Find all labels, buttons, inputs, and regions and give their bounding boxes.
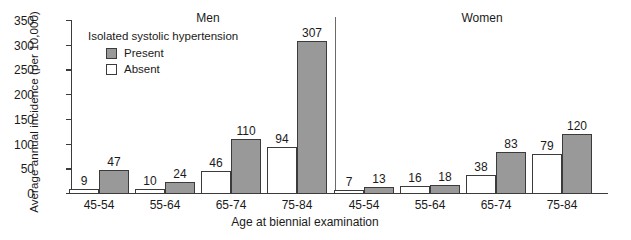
x-tick-men-65-74: 65-74 (196, 198, 266, 212)
x-tick-women-75-84: 75-84 (527, 198, 597, 212)
bar-men-75-84-absent (267, 147, 297, 194)
x-tick-men-55-64: 55-64 (130, 198, 200, 212)
bar-women-55-64-present (430, 185, 460, 194)
x-tick-men-75-84: 75-84 (262, 198, 332, 212)
x-tick-women-65-74: 65-74 (461, 198, 531, 212)
bar-men-65-74-absent (201, 171, 231, 194)
bar-men-55-64-absent (135, 189, 165, 194)
bar-value-women-65-74-absent: 38 (461, 161, 501, 173)
x-tick-women-45-54: 45-54 (329, 198, 399, 212)
bar-value-men-75-84-absent: 94 (262, 133, 302, 145)
bar-value-women-55-64-present: 18 (425, 171, 465, 183)
bar-value-men-45-54-present: 47 (94, 156, 134, 168)
bar-women-55-64-absent (400, 186, 430, 194)
bar-value-women-75-84-absent: 79 (527, 140, 567, 152)
x-tick-men-45-54: 45-54 (64, 198, 134, 212)
x-axis-label: Age at biennial examination (185, 215, 425, 229)
x-tick-women-55-64: 55-64 (395, 198, 465, 212)
bar-value-men-65-74-absent: 46 (196, 157, 236, 169)
bar-women-65-74-present (496, 152, 526, 193)
bar-value-women-45-54-present: 13 (359, 173, 399, 185)
chart-figure: Average annual incidence (per 10,000) 35… (0, 0, 631, 240)
bar-women-65-74-absent (466, 175, 496, 194)
bar-value-men-65-74-present: 110 (226, 125, 266, 137)
bar-value-men-55-64-present: 24 (160, 168, 200, 180)
bar-women-75-84-absent (532, 154, 562, 193)
bar-men-45-54-absent (69, 189, 99, 193)
bar-men-75-84-present (297, 41, 327, 193)
bar-women-45-54-present (364, 187, 394, 193)
bar-value-men-75-84-present: 307 (292, 27, 332, 39)
bar-women-45-54-absent (334, 190, 364, 193)
bar-value-men-45-54-absent: 9 (64, 175, 104, 187)
bar-value-women-65-74-present: 83 (491, 138, 531, 150)
bar-value-women-75-84-present: 120 (557, 120, 597, 132)
